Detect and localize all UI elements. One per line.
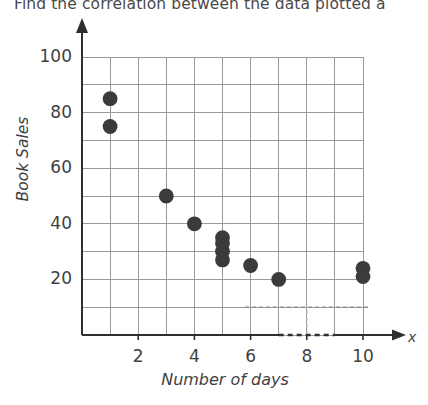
x-axis-tick-label: 10 [343, 346, 383, 366]
data-point [271, 272, 286, 287]
x-axis-arrow-icon [392, 330, 406, 341]
x-axis-tick-label: 2 [118, 346, 158, 366]
x-axis-tick-label: 4 [174, 346, 214, 366]
data-point [215, 253, 230, 268]
y-axis-tick-label: 20 [26, 268, 72, 288]
x-axis-tick-label: 6 [231, 346, 271, 366]
x-axis-tick-label: 8 [287, 346, 327, 366]
y-axis-tick-label: 100 [26, 46, 72, 66]
y-axis-tick-label: 60 [26, 157, 72, 177]
data-point [243, 258, 258, 273]
y-axis-tick-label: 40 [26, 213, 72, 233]
y-axis-tick-label: 80 [26, 102, 72, 122]
data-point [187, 216, 202, 231]
data-point [356, 269, 371, 284]
data-point [103, 91, 118, 106]
data-point [103, 119, 118, 134]
x-axis-label: Number of days [110, 370, 340, 389]
data-point [159, 189, 174, 204]
y-axis-arrow-icon [76, 18, 88, 33]
x-axis-letter: x [408, 329, 416, 345]
